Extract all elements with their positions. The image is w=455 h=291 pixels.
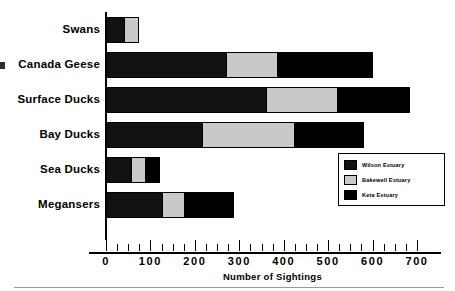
x-axis-ticks [106, 240, 417, 252]
bar-segment-canada-geese-wilson-estuary [107, 53, 226, 77]
x-tick-major-100 [150, 240, 151, 251]
bar-segment-sea-ducks-bakewell-estuary [131, 158, 145, 182]
bar-segment-bay-ducks-bakewell-estuary [202, 123, 295, 147]
x-tick-minor-450 [306, 244, 307, 251]
category-label-megansers: Megansers [0, 198, 100, 210]
legend-item-wilson-estuary: Wilson Estuary [344, 158, 440, 172]
x-tick-minor-575 [361, 244, 362, 251]
legend-label-keta-estuary: Keta Estuary [362, 192, 398, 198]
x-tick-minor-250 [217, 244, 218, 251]
x-axis-title: Number of Sightings [223, 271, 322, 282]
bar-swans [106, 17, 139, 43]
bar-segment-surface-ducks-bakewell-estuary [266, 88, 337, 112]
x-tick-major-500 [328, 240, 329, 251]
x-tick-minor-150 [173, 244, 174, 251]
category-label-bay-ducks: Bay Ducks [0, 128, 100, 140]
x-tick-minor-75 [139, 244, 140, 251]
bar-surface-ducks [106, 87, 410, 113]
bar-segment-canada-geese-bakewell-estuary [226, 53, 277, 77]
bar-canada-geese [106, 52, 373, 78]
bar-segment-megansers-wilson-estuary [107, 193, 162, 217]
x-tick-major-400 [284, 240, 285, 251]
bar-segment-megansers-bakewell-estuary [162, 193, 184, 217]
legend-swatch-bakewell-estuary [344, 175, 357, 185]
x-tick-label-300: 300 [228, 255, 251, 267]
bar-segment-megansers-keta-estuary [184, 193, 233, 217]
x-tick-minor-25 [117, 244, 118, 251]
legend-item-bakewell-estuary: Bakewell Estuary [344, 173, 440, 187]
legend-item-keta-estuary: Keta Estuary [344, 188, 440, 202]
bar-segment-canada-geese-keta-estuary [277, 53, 372, 77]
x-tick-minor-50 [128, 244, 129, 251]
x-tick-major-600 [373, 240, 374, 251]
bar-segment-swans-wilson-estuary [107, 18, 124, 42]
x-tick-minor-275 [228, 244, 229, 251]
legend-label-wilson-estuary: Wilson Estuary [362, 162, 404, 168]
legend-label-bakewell-estuary: Bakewell Estuary [362, 177, 410, 183]
x-tick-minor-425 [295, 244, 296, 251]
bar-segment-swans-bakewell-estuary [124, 18, 139, 42]
bar-segment-bay-ducks-wilson-estuary [107, 123, 202, 147]
x-axis-tick-labels: 0100200300400500600700 [0, 255, 455, 271]
x-tick-minor-350 [262, 244, 263, 251]
page-divider-rule [14, 287, 444, 288]
chart-legend: Wilson Estuary Bakewell Estuary Keta Est… [338, 153, 445, 206]
category-axis-labels: Swans Canada Geese Surface Ducks Bay Duc… [0, 12, 100, 237]
x-tick-minor-550 [350, 244, 351, 251]
x-tick-minor-175 [184, 244, 185, 251]
x-tick-major-200 [195, 240, 196, 251]
category-label-sea-ducks: Sea Ducks [0, 163, 100, 175]
x-tick-minor-375 [273, 244, 274, 251]
x-tick-minor-625 [384, 244, 385, 251]
x-tick-label-100: 100 [139, 255, 162, 267]
category-label-canada-geese: Canada Geese [0, 58, 100, 70]
bar-segment-bay-ducks-keta-estuary [294, 123, 362, 147]
bar-sea-ducks [106, 157, 160, 183]
x-tick-major-700 [417, 240, 418, 251]
bar-segment-sea-ducks-keta-estuary [145, 158, 160, 182]
x-tick-label-600: 600 [361, 255, 384, 267]
category-label-surface-ducks: Surface Ducks [0, 93, 100, 105]
bar-bay-ducks [106, 122, 364, 148]
x-tick-major-300 [239, 240, 240, 251]
x-tick-label-700: 700 [405, 255, 428, 267]
x-axis-line [89, 252, 441, 254]
x-tick-label-500: 500 [317, 255, 340, 267]
category-label-swans: Swans [0, 23, 100, 35]
x-tick-minor-675 [406, 244, 407, 251]
x-tick-minor-125 [162, 244, 163, 251]
bar-segment-surface-ducks-keta-estuary [337, 88, 410, 112]
bar-chart-figure: Swans Canada Geese Surface Ducks Bay Duc… [0, 0, 455, 291]
x-tick-minor-325 [250, 244, 251, 251]
x-tick-minor-650 [395, 244, 396, 251]
x-tick-label-200: 200 [183, 255, 206, 267]
x-tick-label-0: 0 [102, 255, 110, 267]
bar-segment-sea-ducks-wilson-estuary [107, 158, 131, 182]
legend-swatch-keta-estuary [344, 190, 357, 200]
x-axis-title-wrap: Number of Sightings [0, 271, 455, 282]
legend-swatch-wilson-estuary [344, 160, 357, 170]
x-tick-minor-225 [206, 244, 207, 251]
x-tick-minor-525 [339, 244, 340, 251]
x-tick-major-0 [106, 240, 107, 251]
x-tick-label-400: 400 [272, 255, 295, 267]
bar-segment-surface-ducks-wilson-estuary [107, 88, 266, 112]
bar-megansers [106, 192, 234, 218]
x-tick-minor-475 [317, 244, 318, 251]
